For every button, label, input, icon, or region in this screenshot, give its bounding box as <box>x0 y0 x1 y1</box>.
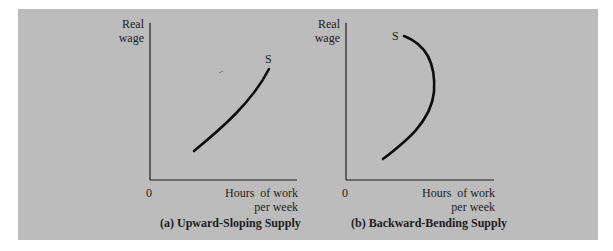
panel-b-xlabel-line1: Hours of work <box>397 186 495 200</box>
panel-a-caption: (a) Upward-Sloping Supply <box>160 216 301 230</box>
panel-b-curve-label: S <box>392 29 399 43</box>
panel-a-xlabel-line2: per week <box>200 200 298 214</box>
panel-a-supply-curve <box>194 69 269 151</box>
panel-b-origin: 0 <box>342 186 348 200</box>
panel-a-ylabel-line1: Real <box>104 17 144 31</box>
panel-b-ylabel-line2: wage <box>300 31 340 45</box>
panel-b-xlabel-line2: per week <box>397 200 495 214</box>
panel-b-supply-curve <box>383 36 434 159</box>
panel-a-origin: 0 <box>146 186 152 200</box>
panel-a-speck <box>219 71 223 73</box>
panel-a-curve-label: S <box>265 52 272 66</box>
panel-b-caption: (b) Backward-Bending Supply <box>351 216 507 230</box>
panel-b-ylabel-line1: Real <box>300 17 340 31</box>
panel-a-xlabel-line1: Hours of work <box>200 186 298 200</box>
panel-a-ylabel-line2: wage <box>104 31 144 45</box>
